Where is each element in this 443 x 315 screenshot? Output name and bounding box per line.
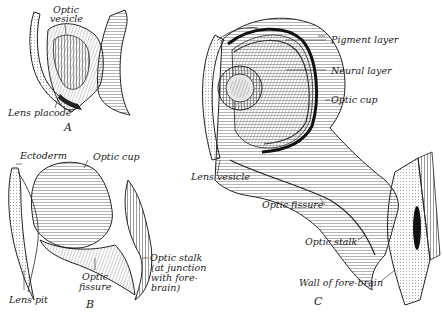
label-ectoderm: Ectoderm [20, 151, 67, 161]
label-pigment-layer: Pigment layer [331, 35, 398, 45]
label-optic-fissure-c: Optic fissure [262, 200, 323, 210]
figure-caption-a: A [64, 121, 72, 134]
label-lens-placode: Lens placode [8, 108, 71, 118]
figure-caption-b: B [86, 298, 94, 311]
label-lens-pit: Lens pit [9, 295, 48, 305]
figure-caption-c: C [314, 295, 322, 308]
figure-b-drawing [9, 160, 152, 300]
figure-c-drawing [203, 18, 440, 305]
label-optic-cup-c: Optic cup [331, 95, 378, 105]
label-optic-vesicle-line2: vesicle [50, 14, 83, 24]
label-optic-stalk-b-line4: brain) [151, 283, 180, 293]
label-lens-vesicle: Lens vesicle [191, 172, 250, 182]
label-neural-layer: Neural layer [331, 66, 392, 76]
label-optic-cup-b: Optic cup [93, 152, 140, 162]
label-wall-of-forebrain: Wall of fore-brain [299, 278, 383, 288]
label-optic-stalk-c: Optic stalk [305, 237, 357, 247]
label-optic-fissure-b-line2: fissure [79, 282, 111, 292]
figure-a-drawing [30, 10, 130, 115]
embryonic-eye-development-diagram: Optic vesicle Lens placode A Ectoderm Op… [0, 0, 443, 315]
